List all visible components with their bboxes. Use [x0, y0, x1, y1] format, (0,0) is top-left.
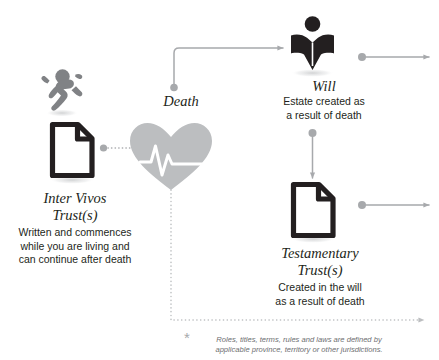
- person-open-book-icon: [291, 16, 334, 77]
- node-description-testamentary: Created in the will as a result of death: [258, 281, 382, 308]
- document-icon: [50, 125, 94, 185]
- node-title-death: Death: [133, 93, 229, 110]
- node-title-inter-vivos: Inter Vivos Trust(s): [0, 190, 150, 224]
- connector-death-to-will: [170, 48, 283, 91]
- connector-will-to-testamentary: [309, 129, 317, 178]
- connector-testamentary-outbound: [358, 201, 429, 209]
- node-description-inter-vivos: Written and commences while you are livi…: [2, 226, 148, 267]
- connector-will-outbound: [358, 53, 429, 61]
- node-title-testamentary: Testamentary Trust(s): [256, 245, 384, 279]
- running-person-icon: [41, 69, 82, 116]
- node-description-will: Estate created as a result of death: [268, 95, 380, 122]
- heart-heartbeat-icon: [130, 123, 212, 190]
- node-title-will: Will: [272, 78, 376, 95]
- document-icon: [291, 185, 335, 244]
- footnote-text: Roles, titles, terms, rules and laws are…: [186, 335, 412, 355]
- diagram-canvas: Inter Vivos Trust(s) Written and commenc…: [0, 0, 439, 360]
